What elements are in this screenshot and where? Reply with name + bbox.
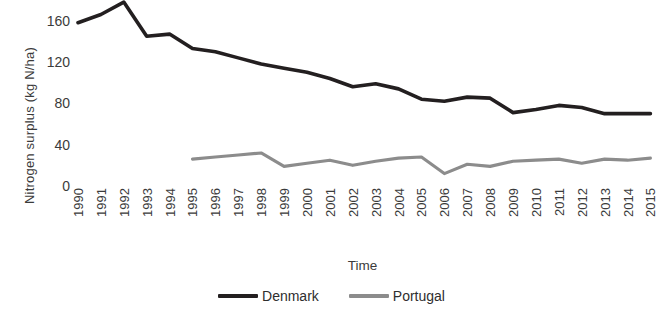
x-tick-label: 1997 <box>231 186 245 246</box>
x-tick-label: 1998 <box>254 186 268 246</box>
x-tick-label: 2002 <box>346 186 360 246</box>
x-axis-title: Time <box>70 258 655 273</box>
x-tick-label: 2010 <box>529 186 543 246</box>
x-tick-label: 2015 <box>643 186 657 246</box>
x-tick-label: 2014 <box>621 186 635 246</box>
y-axis-tick-labels: 04080120160 <box>26 0 70 323</box>
x-tick-label: 2013 <box>598 186 612 246</box>
x-tick-label: 1995 <box>185 186 199 246</box>
nitrogen-surplus-line-chart: Nitrogen surplus (kg N/ha) 04080120160 1… <box>0 0 663 323</box>
x-tick-label: 1990 <box>71 186 85 246</box>
x-axis-tick-labels: 1990199119921993199419951996199719981999… <box>70 186 655 258</box>
x-tick-label: 2006 <box>437 186 451 246</box>
x-tick-label: 1991 <box>94 186 108 246</box>
legend-swatch-icon <box>218 294 258 298</box>
chart-legend: DenmarkPortugal <box>0 288 663 304</box>
x-tick-label: 2004 <box>392 186 406 246</box>
y-tick-label: 120 <box>26 54 70 70</box>
y-tick-label: 80 <box>26 95 70 111</box>
x-tick-label: 1992 <box>117 186 131 246</box>
series-line-denmark <box>78 2 650 114</box>
x-tick-label: 1994 <box>163 186 177 246</box>
legend-swatch-icon <box>349 294 389 298</box>
x-tick-label: 2000 <box>300 186 314 246</box>
series-lines <box>70 0 655 186</box>
x-tick-label: 1993 <box>140 186 154 246</box>
legend-item-denmark[interactable]: Denmark <box>218 288 319 304</box>
x-tick-label: 2008 <box>483 186 497 246</box>
x-tick-label: 2003 <box>369 186 383 246</box>
x-tick-label: 2011 <box>552 186 566 246</box>
legend-label: Portugal <box>393 288 445 304</box>
y-tick-label: 160 <box>26 13 70 29</box>
y-tick-label: 40 <box>26 137 70 153</box>
legend-item-portugal[interactable]: Portugal <box>349 288 445 304</box>
x-tick-label: 1999 <box>277 186 291 246</box>
x-tick-label: 2005 <box>414 186 428 246</box>
legend-label: Denmark <box>262 288 319 304</box>
x-tick-label: 1996 <box>208 186 222 246</box>
x-tick-label: 2001 <box>323 186 337 246</box>
plot-area <box>70 0 655 186</box>
x-tick-label: 2007 <box>460 186 474 246</box>
x-tick-label: 2009 <box>506 186 520 246</box>
series-line-portugal <box>192 153 650 174</box>
x-tick-label: 2012 <box>575 186 589 246</box>
y-tick-label: 0 <box>26 178 70 194</box>
